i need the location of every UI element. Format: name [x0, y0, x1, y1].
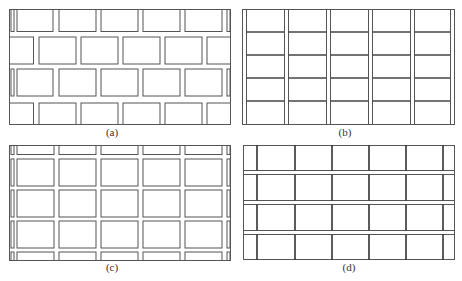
brick-pattern-running-bond — [9, 9, 231, 125]
panel-c — [9, 145, 231, 261]
panel-d-label: (d) — [329, 261, 369, 273]
brick-pattern-vertical-joints — [242, 9, 455, 125]
panel-b — [242, 9, 455, 125]
panel-c-label: (c) — [92, 261, 132, 273]
brick-pattern-horizontal-joints — [243, 145, 455, 260]
panel-a — [9, 9, 231, 125]
panel-d — [243, 145, 455, 260]
panel-a-label: (a) — [92, 126, 132, 138]
brick-pattern-grid-blocks — [9, 145, 231, 261]
panel-b-label: (b) — [325, 126, 365, 138]
